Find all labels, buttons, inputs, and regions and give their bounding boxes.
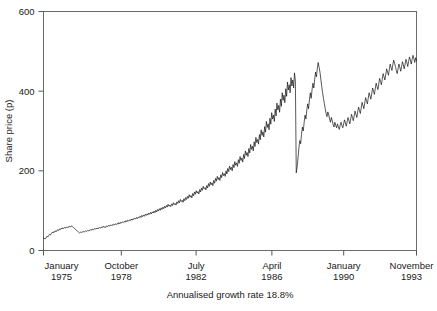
x-tick-label-year: 1993: [401, 271, 422, 282]
x-tick-label-month: April: [262, 260, 281, 271]
series-line-share-price: [44, 55, 417, 239]
x-tick-label-year: 1975: [51, 271, 72, 282]
share-price-chart: 0200400600 January1975October1978July198…: [0, 0, 437, 311]
y-tick-label: 400: [19, 86, 35, 97]
chart-subtitle: Annualised growth rate 18.8%: [167, 289, 294, 300]
y-tick-label: 200: [19, 165, 35, 176]
x-tick-label-month: July: [188, 260, 205, 271]
x-axis: January1975October1978July1982April1986J…: [44, 251, 434, 282]
x-tick-label-month: November: [390, 260, 434, 271]
plot-frame: [44, 12, 417, 251]
chart-figure: 0200400600 January1975October1978July198…: [0, 0, 437, 311]
y-axis: 0200400600: [19, 6, 44, 256]
x-tick-label-year: 1990: [333, 271, 354, 282]
x-tick-label-year: 1982: [186, 271, 207, 282]
x-tick-label-month: January: [327, 260, 361, 271]
y-axis-title: Share price (p): [3, 100, 14, 163]
y-tick-label: 0: [29, 245, 34, 256]
x-tick-label-year: 1978: [111, 271, 132, 282]
y-tick-label: 600: [19, 6, 35, 17]
x-tick-label-month: January: [45, 260, 79, 271]
x-tick-label-month: October: [104, 260, 138, 271]
data-series-group: [44, 55, 417, 239]
x-tick-label-year: 1986: [261, 271, 282, 282]
